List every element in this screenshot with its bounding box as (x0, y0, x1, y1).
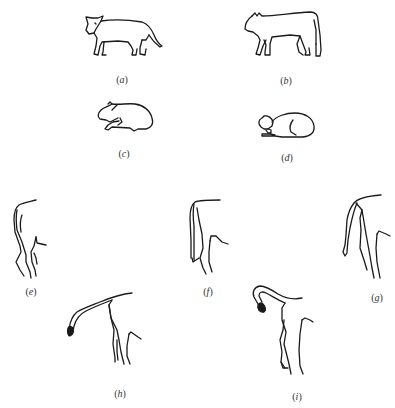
panel-label-c: (c) (118, 148, 129, 159)
tail-drawing-g (343, 195, 390, 278)
cat-drawing-a (86, 16, 162, 55)
tail-drawing-e (14, 200, 46, 278)
panel-label-b: (b) (280, 75, 292, 86)
tail-drawing-h (68, 293, 141, 364)
figure: (a) (b) (c) (d) (e) (f) (g) (h) (i) (0, 0, 395, 408)
panel-label-f: (f) (203, 286, 212, 297)
cat-drawing-d (259, 113, 314, 137)
panel-label-g: (g) (371, 292, 383, 303)
panel-label-i: (i) (292, 391, 301, 402)
cat-drawing-c (98, 102, 152, 131)
panel-label-a: (a) (116, 74, 128, 85)
line-drawings (0, 0, 395, 408)
panel-label-d: (d) (281, 152, 293, 163)
cat-drawing-b (245, 12, 321, 56)
panel-label-h: (h) (114, 388, 126, 399)
tail-drawing-f (190, 200, 228, 274)
panel-label-e: (e) (25, 286, 36, 297)
tail-drawing-i (253, 286, 313, 374)
